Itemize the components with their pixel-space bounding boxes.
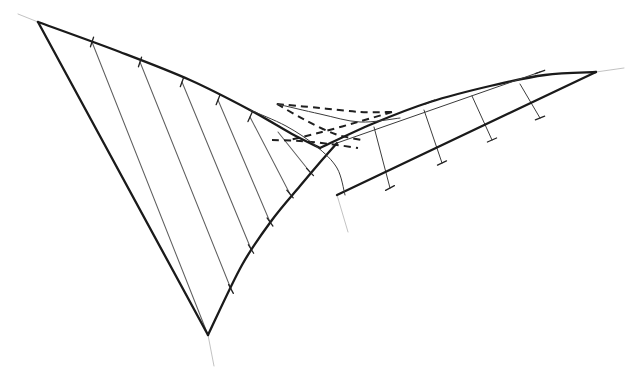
figure-canvas	[0, 0, 636, 376]
swallowtail-surface-diagram	[0, 0, 636, 376]
canvas-background	[0, 0, 636, 376]
